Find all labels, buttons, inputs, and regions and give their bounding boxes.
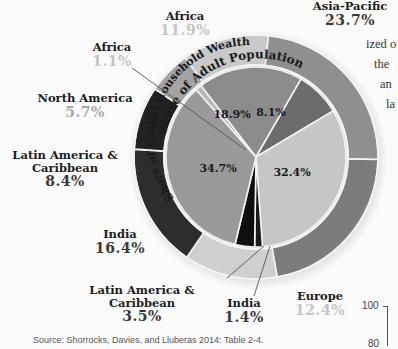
inner-value-asia-pacific: 18.9%	[213, 108, 251, 121]
inner-value-europe: 32.4%	[273, 166, 311, 179]
label-asia-pacific-population: Asia-Pacific 23.7%	[300, 0, 398, 28]
label-north-america-population: North America 5.7%	[20, 92, 150, 120]
label-africa-wealth: Africa 1.1%	[72, 41, 152, 69]
axis-tick-80: 80	[368, 338, 379, 349]
clipped-body-text: ized o the an la	[366, 34, 396, 114]
inner-value-north-america: 34.7%	[199, 162, 237, 175]
inner-pie-household-wealth	[166, 67, 346, 247]
label-india-population: India 16.4%	[80, 228, 160, 256]
label-latam-population: Latin America & Caribbean 8.4%	[0, 149, 130, 190]
axis-tick-100: 100	[362, 300, 379, 311]
source-note: Source: Shorrocks, Davies, and Lluberas …	[33, 335, 263, 345]
inner-value-china: 8.1%	[256, 106, 286, 119]
label-latam-wealth: Latin America & Caribbean 3.5%	[72, 284, 212, 325]
label-india-wealth: India 1.4%	[214, 297, 274, 325]
label-europe-population: Europe 12.4%	[280, 290, 360, 318]
axis-tick-mark	[383, 306, 387, 307]
axis-line	[387, 306, 388, 346]
label-africa-population: Africa 11.9%	[140, 10, 230, 38]
